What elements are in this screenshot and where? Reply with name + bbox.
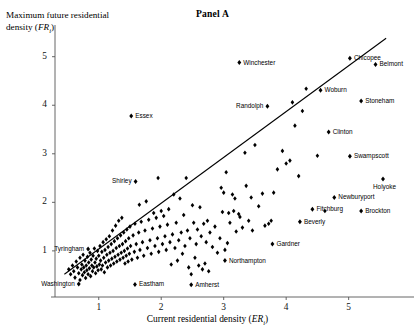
point-label-clinton: Clinton xyxy=(333,128,353,135)
y-tick-label-4: 4 xyxy=(33,99,47,109)
data-point xyxy=(67,267,71,272)
data-point xyxy=(174,220,178,225)
data-point xyxy=(304,86,308,91)
x-tick-label-1: 1 xyxy=(92,302,106,312)
data-point xyxy=(224,170,228,175)
data-point xyxy=(141,240,145,245)
data-point xyxy=(247,218,251,223)
data-point-northampton xyxy=(223,258,227,263)
point-label-beverly: Beverly xyxy=(304,218,325,225)
data-point xyxy=(118,244,122,249)
data-point xyxy=(120,216,124,221)
data-point xyxy=(124,239,128,244)
data-point xyxy=(219,185,223,190)
point-label-randolph: Randolph xyxy=(236,102,263,109)
data-point xyxy=(233,196,237,201)
data-point-gardner xyxy=(270,242,274,247)
data-point-tyringham xyxy=(86,246,90,251)
data-point xyxy=(118,257,122,262)
point-label-washington: Washington xyxy=(41,280,75,287)
data-point xyxy=(213,224,217,229)
point-label-fitchburg: Fitchburg xyxy=(316,205,343,212)
data-point xyxy=(249,195,253,200)
data-point xyxy=(158,224,162,229)
data-point xyxy=(147,218,151,223)
data-point xyxy=(202,221,206,226)
data-point xyxy=(191,203,195,208)
y-tick-label-2: 2 xyxy=(33,196,47,206)
data-point xyxy=(293,123,297,128)
data-point xyxy=(106,265,110,270)
data-point xyxy=(263,223,267,228)
data-point xyxy=(163,234,167,239)
data-point xyxy=(162,214,166,219)
data-point xyxy=(218,236,222,241)
data-point xyxy=(301,109,305,114)
x-tick-label-5: 5 xyxy=(342,302,356,312)
point-label-belmont: Belmont xyxy=(380,60,403,67)
data-point xyxy=(138,248,142,253)
data-point xyxy=(81,252,85,257)
data-point xyxy=(192,220,196,225)
data-point xyxy=(114,246,118,251)
data-point xyxy=(84,276,88,281)
data-point-beverly xyxy=(298,219,302,224)
data-point-belmont xyxy=(374,62,378,67)
point-label-gardner: Gardner xyxy=(276,240,299,247)
data-point xyxy=(122,230,126,235)
data-point xyxy=(116,252,120,257)
data-point xyxy=(87,260,91,265)
data-point xyxy=(204,240,208,245)
data-point xyxy=(114,223,118,228)
data-point xyxy=(146,246,150,251)
data-point xyxy=(269,218,273,223)
data-point-swampscott xyxy=(348,154,352,159)
data-point xyxy=(108,234,112,239)
x-tick-label-4: 4 xyxy=(279,302,293,312)
data-point xyxy=(168,240,172,245)
data-point xyxy=(112,261,116,266)
data-point-holyoke xyxy=(381,177,385,182)
data-point xyxy=(276,167,280,172)
y-tick-label-3: 3 xyxy=(33,148,47,158)
data-point xyxy=(182,213,186,218)
x-tick-label-2: 2 xyxy=(154,302,168,312)
data-point xyxy=(149,251,153,256)
data-point xyxy=(194,242,198,247)
y-tick-label-5: 5 xyxy=(33,51,47,61)
data-point-essex xyxy=(129,113,133,118)
data-point xyxy=(173,246,177,251)
data-point xyxy=(143,228,147,233)
data-point xyxy=(178,196,182,201)
data-point xyxy=(133,250,137,255)
data-point-woburn xyxy=(319,88,323,93)
data-point xyxy=(144,199,148,204)
point-label-chicopee: Chicopee xyxy=(354,54,381,61)
data-point xyxy=(134,242,138,247)
data-point xyxy=(113,254,117,259)
data-point xyxy=(223,248,227,253)
data-point xyxy=(169,262,173,267)
data-point xyxy=(241,225,245,230)
data-point xyxy=(198,205,202,210)
data-point xyxy=(123,261,127,266)
data-point xyxy=(166,222,170,227)
data-point xyxy=(231,192,235,197)
data-point xyxy=(272,190,276,195)
point-label-essex: Essex xyxy=(135,112,152,119)
data-point xyxy=(126,259,130,264)
data-point xyxy=(121,255,125,260)
data-point xyxy=(183,244,187,249)
data-point xyxy=(139,219,143,224)
point-label-newburyport: Newburyport xyxy=(338,193,374,200)
data-point xyxy=(74,259,78,264)
data-point xyxy=(106,245,110,250)
data-point-winchester xyxy=(237,60,241,65)
data-point xyxy=(138,202,142,207)
data-point xyxy=(113,239,117,244)
data-point xyxy=(186,228,190,233)
point-label-eastham: Eastham xyxy=(139,280,164,287)
data-point xyxy=(281,149,285,154)
data-point xyxy=(261,191,265,196)
data-point xyxy=(136,255,140,260)
